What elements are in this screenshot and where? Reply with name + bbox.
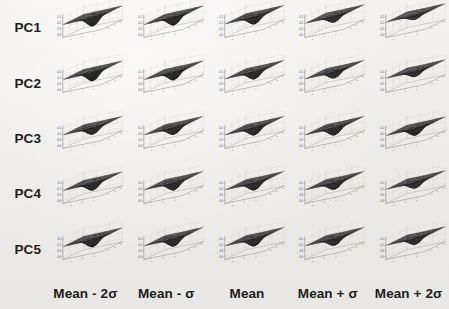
y-tick-label: -1 [269, 193, 272, 195]
z-tick-label: -0.1 [218, 16, 223, 19]
z-axis: -0.4-0.3-0.2-0.1 [218, 70, 224, 93]
z-tick-label: -0.1 [57, 182, 62, 185]
column-label-2: Mean - σ [126, 277, 207, 309]
z-tick-label: -0.1 [57, 71, 62, 74]
z-tick-label: -0.1 [380, 127, 385, 130]
z-tick-label: -0.3 [218, 83, 223, 86]
x-tick-label: -1 [162, 146, 165, 148]
z-tick-label: -0.4 [299, 144, 304, 147]
z-tick-label: -0.2 [218, 188, 223, 191]
z-axis: -0.4-0.3-0.2-0.1 [138, 14, 144, 37]
y-tick-label: -1 [350, 27, 353, 29]
surface-plot-pc2-col5: -0.4-0.3-0.2-0.10-11-101 [368, 55, 449, 110]
x-tick-label: -1 [404, 201, 407, 203]
z-tick-label: -0.3 [380, 249, 385, 252]
z-tick-label: -0.1 [57, 238, 62, 241]
row-label-pc2: PC2 [0, 55, 45, 110]
y-tick-label: -1 [188, 193, 191, 195]
surface-plot-canvas: -0.4-0.3-0.2-0.10-11-101 [207, 111, 288, 166]
x-tick-label: 0 [232, 204, 234, 206]
z-tick-label: -0.3 [57, 83, 62, 86]
y-tick-label: -1 [108, 83, 111, 85]
x-tick-label: 1 [416, 254, 418, 256]
z-tick-label: -0.4 [299, 255, 304, 258]
z-tick-label: -0.1 [380, 16, 385, 19]
x-tick-label: -1 [243, 35, 246, 37]
z-axis: -0.4-0.3-0.2-0.1 [299, 125, 305, 148]
x-tick-label: 1 [416, 33, 418, 35]
x-tick-label: 0 [151, 259, 153, 261]
y-tick-label: 0 [114, 246, 116, 248]
row-label-pc5: PC5 [0, 222, 45, 277]
surface-plot-pc5-col4: -0.4-0.3-0.2-0.10-11-101 [287, 222, 368, 277]
y-tick-label: 0 [195, 135, 197, 137]
z-tick-label: -0.2 [218, 22, 223, 25]
surface-plot-pc3-col1: -0.4-0.3-0.2-0.10-11-101 [45, 111, 126, 166]
x-tick-label: 0 [232, 93, 234, 95]
z-tick-label: -0.1 [138, 16, 143, 19]
z-tick-label: -0.2 [57, 188, 62, 191]
z-tick-label: -0.1 [380, 182, 385, 185]
z-tick-label: -0.4 [138, 144, 143, 147]
z-tick-label: -0.3 [138, 28, 143, 31]
z-axis: -0.4-0.3-0.2-0.1 [57, 14, 63, 37]
surface-plot-canvas: -0.4-0.3-0.2-0.10-11-101 [207, 55, 288, 110]
mesh-surface [305, 5, 365, 24]
z-tick-label: -0.4 [57, 200, 62, 203]
z-tick-label: -0.4 [380, 144, 385, 147]
z-tick-label: -0.3 [57, 28, 62, 31]
z-tick-label: -0.3 [218, 194, 223, 197]
x-tick-label: 0 [232, 148, 234, 150]
y-tick-label: 0 [357, 80, 359, 82]
y-tick-label: 0 [276, 135, 278, 137]
surface-plot-canvas: -0.4-0.3-0.2-0.10-11-101 [368, 222, 449, 277]
z-tick-label: -0.1 [57, 16, 62, 19]
z-tick-label: -0.2 [380, 22, 385, 25]
x-tick-label: 0 [393, 93, 395, 95]
x-tick-label: -1 [404, 91, 407, 93]
surface-plot-pc3-col3: -0.4-0.3-0.2-0.10-11-101 [207, 111, 288, 166]
y-tick-label: 1 [444, 188, 446, 190]
surface-plot-pc1-col1: -0.4-0.3-0.2-0.10-11-101 [45, 0, 126, 55]
floor-axes: 0-11-101 [386, 20, 446, 40]
z-axis: -0.4-0.3-0.2-0.1 [218, 14, 224, 37]
surface-plot-pc1-col5: -0.4-0.3-0.2-0.10-11-101 [368, 0, 449, 55]
y-tick-label: 0 [438, 135, 440, 137]
y-tick-label: 1 [363, 243, 365, 245]
z-tick-label: -0.1 [299, 71, 304, 74]
mesh-surface [386, 117, 446, 136]
y-tick-label: 0 [438, 24, 440, 26]
z-tick-label: -0.3 [138, 249, 143, 252]
panel-grid: PC1-0.4-0.3-0.2-0.10-11-101-0.4-0.3-0.2-… [0, 0, 449, 309]
y-tick-label: -1 [108, 249, 111, 251]
y-tick-label: 0 [357, 24, 359, 26]
z-axis: -0.4-0.3-0.2-0.1 [299, 180, 305, 203]
z-axis: -0.4-0.3-0.2-0.1 [57, 180, 63, 203]
x-tick-label: -1 [243, 257, 246, 259]
x-tick-label: -1 [81, 257, 84, 259]
surface-plot-canvas: -0.4-0.3-0.2-0.10-11-101 [368, 111, 449, 166]
z-tick-label: -0.3 [138, 83, 143, 86]
z-axis: -0.4-0.3-0.2-0.1 [218, 125, 224, 148]
z-tick-label: -0.4 [380, 255, 385, 258]
z-axis: -0.4-0.3-0.2-0.1 [218, 236, 224, 259]
z-axis: -0.4-0.3-0.2-0.1 [57, 70, 63, 93]
z-tick-label: -0.2 [138, 77, 143, 80]
surface-plot-canvas: -0.4-0.3-0.2-0.10-11-101 [45, 55, 126, 110]
y-tick-label: -1 [269, 83, 272, 85]
surface-plot-canvas: -0.4-0.3-0.2-0.10-11-101 [45, 166, 126, 221]
y-tick-label: 0 [195, 246, 197, 248]
z-axis: -0.4-0.3-0.2-0.1 [138, 70, 144, 93]
x-tick-label: 1 [336, 88, 338, 90]
z-tick-label: -0.3 [218, 28, 223, 31]
z-tick-label: -0.3 [57, 194, 62, 197]
surface-plot-pc1-col2: -0.4-0.3-0.2-0.10-11-101 [126, 0, 207, 55]
x-tick-label: 1 [174, 88, 176, 90]
z-tick-label: -0.2 [299, 243, 304, 246]
y-tick-label: 0 [276, 246, 278, 248]
z-tick-label: -0.2 [299, 133, 304, 136]
x-tick-label: 1 [255, 199, 257, 201]
y-tick-label: -1 [350, 193, 353, 195]
z-tick-label: -0.2 [299, 77, 304, 80]
surface-plot-pc5-col3: -0.4-0.3-0.2-0.10-11-101 [207, 222, 288, 277]
